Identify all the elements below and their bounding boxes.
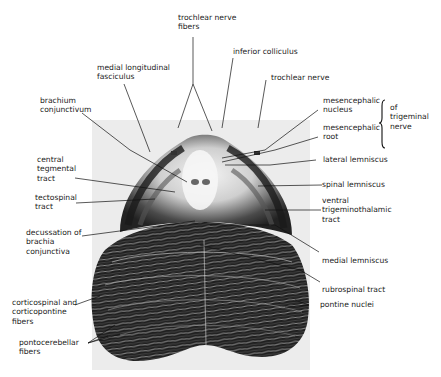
label-mesencephalic-root: mesencephalic root [323, 123, 380, 142]
label-rubrospinal-tract: rubrospinal tract [322, 285, 385, 294]
label-mesencephalic-nucleus: mesencephalic nucleus [323, 96, 380, 115]
label-pontocerebellar-fibers: pontocerebellar fibers [19, 338, 79, 357]
label-medial-lemniscus: medial lemniscus [322, 256, 388, 265]
label-spinal-lemniscus: spinal lemniscus [322, 180, 385, 189]
basal-pons [92, 222, 309, 361]
label-trochlear-nerve-fibers: trochlear nerve fibers [178, 13, 236, 32]
label-central-tegmental-tract: central tegmental tract [37, 155, 76, 183]
label-corticospinal-and-corticopontine-fibers: corticospinal and corticopontine fibers [12, 298, 77, 326]
label-pontine-nuclei: pontine nuclei [320, 300, 374, 309]
label-tectospinal-tract: tectospinal tract [35, 193, 77, 212]
label-ventral-trigeminothalamic-tract: ventral trigeminothalamic tract [322, 196, 392, 224]
label-of-trigeminal-nerve: of trigeminal nerve [390, 103, 429, 131]
label-lateral-lemniscus: lateral lemniscus [323, 155, 388, 164]
label-trochlear-nerve: trochlear nerve [271, 73, 329, 82]
label-decussation-of-brachia-conjunctiva: decussation of brachia conjunctiva [26, 228, 81, 256]
label-inferior-colliculus: inferior colliculus [233, 47, 298, 56]
label-brachium-conjunctivum: brachium conjunctivum [40, 96, 91, 115]
label-medial-longitudinal-fasciculus: medial longitudinal fasciculus [97, 63, 170, 82]
